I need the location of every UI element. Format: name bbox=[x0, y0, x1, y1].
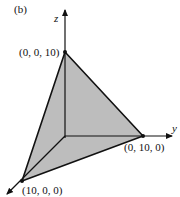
point-y-intercept bbox=[141, 134, 145, 138]
z-axis-label: z bbox=[53, 12, 59, 24]
point-x-intercept bbox=[20, 179, 24, 183]
x-intercept-label: (10, 0, 0) bbox=[22, 184, 63, 197]
z-intercept-label: (0, 0, 10) bbox=[19, 46, 60, 59]
point-z-intercept bbox=[63, 50, 67, 54]
y-intercept-label: (0, 10, 0) bbox=[124, 141, 165, 154]
plane-diagram: (b) z y (0, 0, 10) (0, 10, 0) (10, 0, 0) bbox=[0, 0, 180, 197]
panel-label: (b) bbox=[14, 3, 27, 16]
y-axis-label: y bbox=[171, 122, 177, 134]
